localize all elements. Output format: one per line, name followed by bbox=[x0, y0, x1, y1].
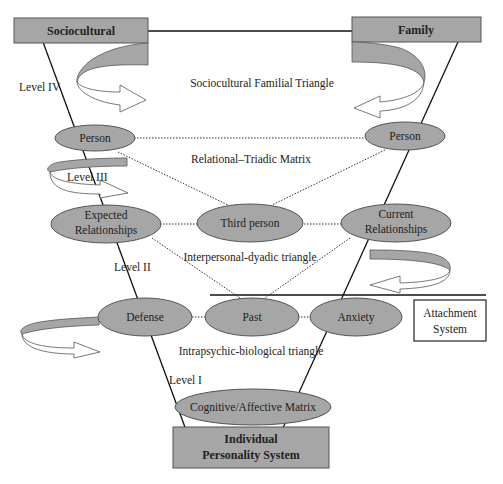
third-person-node: Third person bbox=[197, 204, 303, 242]
cognitive-affective-node: Cognitive/Affective Matrix bbox=[175, 389, 331, 425]
third-person-label: Third person bbox=[220, 217, 279, 230]
individual-label-line1: Individual bbox=[224, 432, 278, 446]
sociocultural-box: Sociocultural bbox=[14, 18, 148, 43]
attachment-system-box: Attachment System bbox=[414, 300, 486, 341]
level-i-label: Level I bbox=[169, 374, 202, 386]
past-label: Past bbox=[242, 311, 262, 323]
level-ii-label: Level II bbox=[114, 261, 151, 273]
curved-arrow-icon bbox=[370, 250, 450, 293]
anxiety-label: Anxiety bbox=[337, 311, 374, 324]
current-label-line1: Current bbox=[378, 208, 414, 220]
person-left-label: Person bbox=[79, 132, 111, 144]
intrapsychic-biological-triangle-label: Intrapsychic-biological triangle bbox=[179, 345, 324, 358]
current-relationships-node: Current Relationships bbox=[341, 204, 451, 242]
anxiety-node: Anxiety bbox=[310, 298, 402, 336]
current-past-dotted bbox=[265, 238, 350, 298]
sociocultural-familial-triangle-label: Sociocultural Familial Triangle bbox=[190, 77, 334, 90]
person-left-node: Person bbox=[55, 125, 135, 151]
relational-triadic-matrix-label: Relational–Triadic Matrix bbox=[191, 153, 311, 165]
attachment-label-line2: System bbox=[433, 323, 467, 336]
expected-label-line2: Relationships bbox=[75, 224, 138, 237]
defense-node: Defense bbox=[98, 298, 192, 336]
level-iii-label: Level III bbox=[67, 171, 108, 183]
curved-arrow-icon bbox=[352, 42, 425, 118]
defense-label: Defense bbox=[126, 311, 164, 323]
attachment-label-line1: Attachment bbox=[423, 307, 477, 319]
systems-diagram: Sociocultural Family Attachment System P… bbox=[0, 0, 503, 484]
family-box: Family bbox=[352, 17, 481, 42]
person-right-node: Person bbox=[365, 122, 445, 150]
curved-arrow-icon bbox=[77, 43, 148, 112]
past-node: Past bbox=[205, 298, 299, 336]
interpersonal-dyadic-triangle-label: Interpersonal-dyadic triangle bbox=[183, 251, 316, 264]
expected-label-line1: Expected bbox=[85, 209, 128, 222]
level-iv-label: Level IV bbox=[19, 81, 61, 93]
individual-personality-box: Individual Personality System bbox=[173, 427, 329, 468]
current-label-line2: Relationships bbox=[365, 223, 428, 236]
family-label: Family bbox=[398, 23, 434, 37]
cognitive-affective-label: Cognitive/Affective Matrix bbox=[190, 401, 316, 414]
expected-relationships-node: Expected Relationships bbox=[51, 205, 161, 243]
individual-label-line2: Personality System bbox=[202, 448, 300, 462]
sociocultural-label: Sociocultural bbox=[47, 24, 116, 38]
person-right-label: Person bbox=[389, 130, 421, 142]
curved-arrow-icon bbox=[21, 317, 100, 358]
expected-past-dotted bbox=[152, 238, 240, 298]
